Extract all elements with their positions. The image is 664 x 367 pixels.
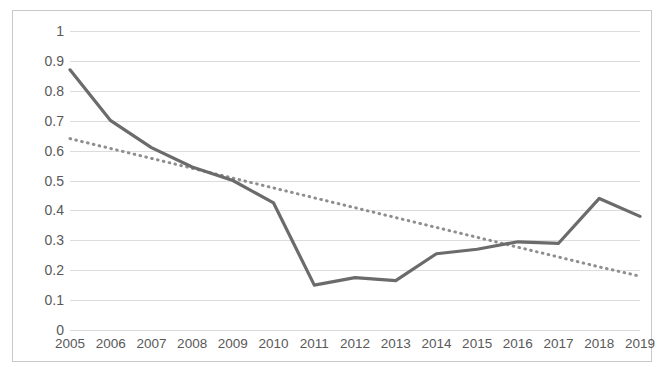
x-axis-tick-label: 2011 (300, 336, 329, 351)
x-axis-tick-label: 2019 (625, 336, 655, 351)
x-axis-tick-label: 2012 (340, 336, 370, 351)
x-axis-tick-label: 2007 (136, 336, 166, 351)
x-axis-tick-label: 2016 (503, 336, 533, 351)
y-axis-tick-label: 0.1 (12, 292, 64, 308)
x-axis-tick-label: 2015 (462, 336, 492, 351)
y-axis-tick-label: 0.5 (12, 173, 64, 189)
trendline-series (70, 139, 640, 277)
y-axis-tick-label: 0.7 (12, 113, 64, 129)
y-axis-tick-label: 1 (12, 23, 64, 39)
data-series-line (70, 70, 640, 285)
plot-area (70, 31, 640, 330)
x-axis-tick-label: 2017 (544, 336, 574, 351)
y-axis-tick-label: 0.8 (12, 83, 64, 99)
y-axis-tick-label: 0.2 (12, 262, 64, 278)
y-axis-tick-label: 0.4 (12, 202, 64, 218)
y-axis-tick-label: 0.3 (12, 232, 64, 248)
x-axis-tick-label: 2013 (381, 336, 411, 351)
x-axis-tick-label: 2009 (218, 336, 248, 351)
y-axis-tick-label: 0.6 (12, 143, 64, 159)
x-axis-tick-label: 2006 (96, 336, 126, 351)
x-axis-tick-label: 2005 (55, 336, 85, 351)
series-svg (70, 31, 640, 330)
x-axis-tick-label: 2008 (177, 336, 207, 351)
x-axis-tick-label: 2018 (584, 336, 614, 351)
gridline (70, 330, 640, 331)
x-axis-labels: 2005200620072008200920102011201220132014… (70, 336, 640, 360)
line-chart-figure: 10.90.80.70.60.50.40.30.20.10 2005200620… (0, 0, 664, 367)
x-axis-tick-label: 2014 (421, 336, 451, 351)
y-axis-labels: 10.90.80.70.60.50.40.30.20.10 (12, 31, 64, 330)
y-axis-tick-label: 0.9 (12, 53, 64, 69)
x-axis-tick-label: 2010 (259, 336, 289, 351)
